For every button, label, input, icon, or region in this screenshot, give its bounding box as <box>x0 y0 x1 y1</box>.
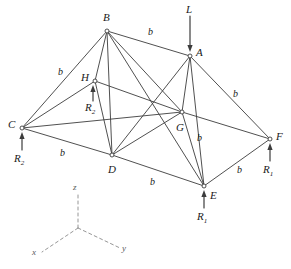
dimension-label-b-af: b <box>233 89 238 99</box>
joint-f <box>268 137 272 141</box>
member-ad <box>112 56 190 155</box>
axis-y-label: y <box>122 244 126 253</box>
axis-x-label: x <box>32 248 36 257</box>
joint-e <box>202 184 206 188</box>
reaction-arrow-r2-h-head <box>90 85 95 92</box>
node-label-a: A <box>196 47 203 58</box>
axes-layer <box>42 192 120 252</box>
force-label-load-l: L <box>186 4 192 15</box>
node-label-f: F <box>276 131 283 142</box>
dimension-label-b-de: b <box>150 177 155 187</box>
load-arrow-l-head <box>187 45 192 52</box>
dimension-label-b-cd: b <box>60 148 65 158</box>
node-label-h: H <box>81 72 89 83</box>
joint-g <box>180 110 184 114</box>
member-bg <box>107 31 182 112</box>
force-label-subscript: 1 <box>270 170 274 178</box>
force-label-react-r2-c: R2 <box>14 153 24 167</box>
node-label-g: G <box>176 122 184 133</box>
joint-h <box>93 79 97 83</box>
force-label-react-r2-h: R2 <box>85 102 95 116</box>
axis-y <box>78 228 120 248</box>
force-label-subscript: 1 <box>204 217 208 225</box>
member-ef <box>204 139 270 186</box>
axis-x <box>42 228 78 252</box>
dimension-label-b-ef: b <box>237 165 242 175</box>
reaction-arrow-r1-f-head <box>267 143 272 150</box>
reaction-arrow-r2-c-head <box>19 132 24 139</box>
members-layer <box>22 31 270 186</box>
dimension-label-b-cb: b <box>58 67 63 77</box>
joint-d <box>110 153 114 157</box>
member-cg <box>22 112 182 128</box>
force-label-react-r1-f: R1 <box>263 164 273 178</box>
joint-b <box>105 29 109 33</box>
dimension-label-b-ba: b <box>148 27 153 37</box>
axis-z-label: z <box>73 183 77 192</box>
member-ge <box>182 112 204 186</box>
force-label-subscript: 2 <box>92 108 96 116</box>
node-label-e: E <box>210 190 217 201</box>
node-label-d: D <box>108 164 116 175</box>
member-hg <box>95 81 182 112</box>
joint-c <box>20 126 24 130</box>
dimension-label-b-ge: b <box>197 133 202 143</box>
node-label-c: C <box>8 119 15 130</box>
node-label-b: B <box>103 12 110 23</box>
member-de <box>112 155 204 186</box>
reaction-arrow-r1-e-head <box>201 190 206 197</box>
member-cd <box>22 128 112 155</box>
joint-a <box>188 54 192 58</box>
truss-diagram-canvas <box>0 0 291 269</box>
force-label-react-r1-e: R1 <box>197 211 207 225</box>
force-label-subscript: 2 <box>21 159 25 167</box>
